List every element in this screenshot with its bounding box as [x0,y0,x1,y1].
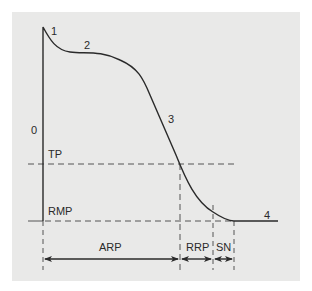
sn-label: SN [216,241,231,253]
rmp-label: RMP [48,205,72,217]
action-potential-curve [43,27,278,221]
phase-1-label: 1 [51,25,57,37]
rrp-label: RRP [186,241,209,253]
phase-0-label: 0 [31,124,37,136]
action-potential-diagram: 0 1 2 3 4 TP RMP ARP RRP SN [0,0,312,291]
threshold-label: TP [48,148,62,160]
arp-label: ARP [99,241,122,253]
phase-2-label: 2 [84,39,90,51]
phase-4-label: 4 [264,209,270,221]
phase-3-label: 3 [168,113,174,125]
